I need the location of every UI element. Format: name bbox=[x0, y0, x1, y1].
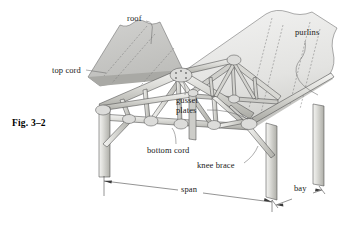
gusset-plate-far-mid bbox=[229, 95, 240, 103]
bay-dim-line-a bbox=[276, 199, 292, 205]
label-bottom-cord: bottom cord bbox=[147, 146, 189, 156]
span-arrow-right bbox=[264, 198, 272, 202]
leader-knee-brace bbox=[244, 146, 258, 163]
gusset-plate-mid-left bbox=[144, 116, 158, 126]
span-arrow-left bbox=[104, 181, 112, 184]
label-roof: roof bbox=[127, 14, 142, 24]
bay-arrow-near bbox=[276, 204, 283, 207]
gusset-plate-right-eave bbox=[241, 119, 257, 130]
label-knee-brace: knee brace bbox=[197, 161, 235, 171]
span-dim-line-a bbox=[104, 181, 178, 190]
label-gusset-plates-line2: plates bbox=[176, 106, 196, 116]
leader-bottom-cord bbox=[172, 128, 176, 144]
figure-roof-truss: Fig. 3–2 roof purlins top cord gusset pl… bbox=[0, 0, 349, 225]
span-dim-line-b bbox=[203, 193, 272, 202]
label-bay: bay bbox=[294, 184, 307, 194]
dimension-lines bbox=[104, 176, 325, 212]
label-top-cord: top cord bbox=[52, 66, 81, 76]
bay-extension-near bbox=[272, 200, 278, 208]
gusset-plate-mid bbox=[174, 119, 188, 129]
gusset-plate-apex bbox=[170, 68, 192, 82]
column-right-far bbox=[313, 104, 324, 186]
gusset-plate-far-apex bbox=[227, 55, 241, 65]
gusset-plate-left-web bbox=[123, 115, 136, 124]
figure-number: Fig. 3–2 bbox=[12, 118, 46, 128]
gusset-plate-left-eave bbox=[96, 105, 111, 115]
column-right-near bbox=[266, 123, 277, 200]
label-span: span bbox=[181, 185, 197, 195]
gusset-plate-mid-right bbox=[208, 121, 221, 130]
label-purlins: purlins bbox=[295, 28, 319, 38]
